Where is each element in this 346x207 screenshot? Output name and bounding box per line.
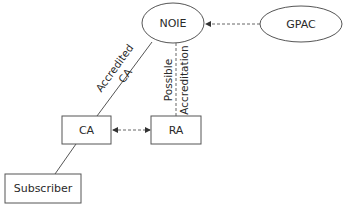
edge-label-possible: Possible [162, 59, 174, 101]
pki-accreditation-diagram: NOIE GPAC CA RA Subscriber Accredited CA… [0, 0, 346, 207]
node-ra-label: RA [169, 124, 184, 137]
edge-ca-subscriber [55, 144, 76, 174]
edge-label-accreditation: Accreditation [178, 45, 190, 114]
node-gpac-label: GPAC [286, 18, 316, 31]
node-noie: NOIE [142, 3, 204, 43]
node-subscriber-label: Subscriber [14, 182, 73, 195]
node-ca-label: CA [79, 124, 95, 137]
edge-label-accredited: Accredited [93, 42, 136, 94]
node-noie-label: NOIE [159, 17, 186, 30]
node-subscriber: Subscriber [5, 174, 81, 203]
node-ra: RA [151, 116, 201, 144]
edge-label-accredited-ca: Accredited CA [93, 42, 146, 102]
node-ca: CA [62, 116, 111, 144]
node-gpac: GPAC [260, 6, 342, 42]
